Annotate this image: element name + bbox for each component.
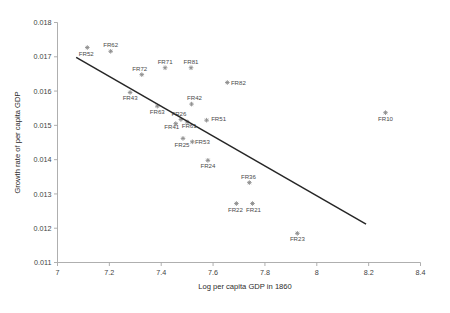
data-point: FR36 xyxy=(241,173,257,185)
point-label: FR82 xyxy=(231,79,247,86)
data-point: FR72 xyxy=(132,65,148,77)
y-tick-label: 0.018 xyxy=(34,18,52,27)
point-label: FR52 xyxy=(79,50,95,57)
point-label: FR21 xyxy=(246,206,262,213)
point-label: FR25 xyxy=(175,141,191,148)
data-point: FR71 xyxy=(158,58,174,70)
y-tick-label: 0.014 xyxy=(34,155,52,164)
data-point: FR42 xyxy=(187,94,203,106)
data-point: FR63 xyxy=(150,104,166,115)
data-point: FR22 xyxy=(228,201,244,212)
scatter-chart: 0.0110.0120.0130.0140.0150.0160.0170.018… xyxy=(0,0,450,313)
x-tick-label: 7.2 xyxy=(104,268,114,277)
point-label: FR51 xyxy=(211,115,227,122)
data-point: FR51 xyxy=(204,115,226,122)
x-tick-label: 7 xyxy=(56,268,60,277)
point-label: FR71 xyxy=(158,58,174,65)
point-label: FR22 xyxy=(228,206,244,213)
data-point: FR81 xyxy=(184,58,200,70)
point-label: FR81 xyxy=(184,58,200,65)
y-axis-ticks: 0.0110.0120.0130.0140.0150.0160.0170.018 xyxy=(34,18,58,267)
data-point: FR10 xyxy=(378,110,394,121)
y-tick-label: 0.017 xyxy=(34,52,52,61)
point-label: FR72 xyxy=(132,65,148,72)
point-label: FR63 xyxy=(150,108,166,115)
y-tick-label: 0.011 xyxy=(34,258,51,267)
point-marker xyxy=(163,65,168,70)
point-marker xyxy=(189,102,194,107)
data-point: FR61 xyxy=(182,120,198,129)
point-marker xyxy=(225,80,230,85)
data-point: FR25 xyxy=(175,136,191,148)
data-point: FR21 xyxy=(246,201,262,212)
y-tick-label: 0.012 xyxy=(34,224,52,233)
data-point: FR62 xyxy=(103,41,119,53)
data-point: FR82 xyxy=(225,79,246,86)
point-label: FR53 xyxy=(195,138,211,145)
point-label: FR24 xyxy=(200,162,216,169)
point-label: FR36 xyxy=(241,173,257,180)
point-marker xyxy=(108,49,113,54)
y-tick-label: 0.013 xyxy=(34,190,52,199)
data-point: FR24 xyxy=(200,158,216,169)
point-label: FR23 xyxy=(290,235,306,242)
point-label: FR41 xyxy=(164,123,180,130)
data-point: FR41 xyxy=(164,121,180,129)
x-tick-label: 7.4 xyxy=(156,268,166,277)
x-axis-title: Log per capita GDP in 1860 xyxy=(198,282,292,291)
point-marker xyxy=(139,72,144,77)
data-point: FR53 xyxy=(190,138,210,145)
x-tick-label: 7.6 xyxy=(208,268,218,277)
x-tick-label: 8.2 xyxy=(364,268,374,277)
trend-line xyxy=(76,57,366,224)
chart-canvas: 0.0110.0120.0130.0140.0150.0160.0170.018… xyxy=(0,0,450,313)
point-marker xyxy=(204,118,209,123)
point-label: FR10 xyxy=(378,115,394,122)
y-axis-title: Growth rate of per capita GDP xyxy=(13,91,22,193)
point-marker xyxy=(189,65,194,70)
y-tick-label: 0.015 xyxy=(34,121,52,130)
x-tick-label: 8 xyxy=(315,268,319,277)
point-label: FR42 xyxy=(187,94,203,101)
y-tick-label: 0.016 xyxy=(34,87,52,96)
point-marker xyxy=(247,180,252,185)
point-label: FR62 xyxy=(103,41,119,48)
x-axis-ticks: 77.27.47.67.888.28.4 xyxy=(56,263,426,277)
x-tick-label: 7.8 xyxy=(260,268,270,277)
point-marker xyxy=(181,136,186,141)
data-point: FR52 xyxy=(79,45,95,56)
data-point: FR23 xyxy=(290,231,306,242)
point-label: FR43 xyxy=(123,94,139,101)
x-tick-label: 8.4 xyxy=(416,268,426,277)
